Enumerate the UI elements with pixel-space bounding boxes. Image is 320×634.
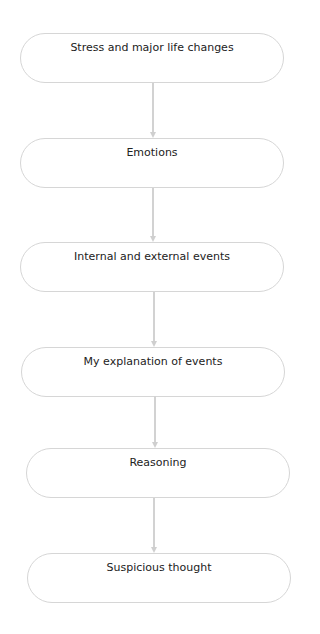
connector-line: [153, 292, 155, 341]
connector-line: [152, 83, 154, 133]
node-label: Emotions: [21, 146, 283, 160]
connector-line: [154, 396, 156, 442]
connector-line: [152, 188, 154, 236]
node-label: Reasoning: [27, 456, 289, 470]
node-label: My explanation of events: [22, 355, 284, 369]
connector-line: [153, 498, 155, 547]
flow-node-internal-external-events: Internal and external events: [20, 242, 284, 292]
node-label: Internal and external events: [21, 250, 283, 264]
node-label: Stress and major life changes: [21, 41, 283, 55]
flow-node-stress: Stress and major life changes: [20, 33, 284, 83]
flow-node-emotions: Emotions: [20, 138, 284, 188]
flow-node-reasoning: Reasoning: [26, 448, 290, 498]
flow-node-explanation-of-events: My explanation of events: [21, 347, 285, 397]
node-label: Suspicious thought: [28, 561, 290, 575]
flow-node-suspicious-thought: Suspicious thought: [27, 553, 291, 603]
